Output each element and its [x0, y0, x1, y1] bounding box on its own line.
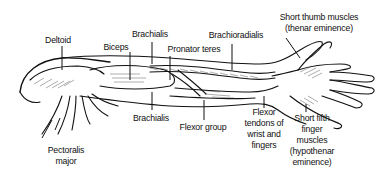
label-line: major [42, 155, 90, 166]
label-pectoralis-major: Pectoralis major [42, 144, 90, 166]
label-line: wrist and [238, 128, 290, 139]
label-line: Flexor [238, 106, 290, 117]
label-line: (thenar eminence) [278, 22, 361, 33]
label-line: fingers [238, 139, 290, 150]
label-thenar: Short thumb muscles (thenar eminence) [278, 11, 361, 33]
label-hypothenar: Short fifth finger muscles (hypothenar e… [286, 112, 338, 167]
label-line: Short thumb muscles [278, 11, 361, 22]
label-line: Flexor group [174, 121, 231, 132]
label-flexor-group: Flexor group [174, 121, 231, 132]
label-line: Pronator teres [161, 43, 227, 54]
label-line: (hypothenar [286, 145, 338, 156]
label-brachialis-bottom: Brachialis [128, 112, 174, 123]
label-line: finger [286, 123, 338, 134]
label-line: Deltoid [36, 34, 80, 45]
label-deltoid: Deltoid [36, 34, 80, 45]
label-brachialis-top: Brachialis [128, 28, 172, 39]
label-line: Brachialis [128, 28, 172, 39]
label-line: Biceps [99, 41, 132, 52]
label-line: tendons of [238, 117, 290, 128]
label-pronator-teres: Pronator teres [161, 43, 227, 54]
label-brachioradialis: Brachioradialis [203, 29, 269, 40]
label-line: Short fifth [286, 112, 338, 123]
label-line: Brachioradialis [203, 29, 269, 40]
arm-muscle-diagram: Deltoid Biceps Brachialis Pronator teres… [0, 0, 382, 188]
label-line: Brachialis [128, 112, 174, 123]
label-line: muscles [286, 134, 338, 145]
label-biceps: Biceps [99, 41, 132, 52]
label-line: Pectoralis [42, 144, 90, 155]
label-line: eminence) [286, 156, 338, 167]
label-flexor-tendons: Flexor tendons of wrist and fingers [238, 106, 290, 150]
